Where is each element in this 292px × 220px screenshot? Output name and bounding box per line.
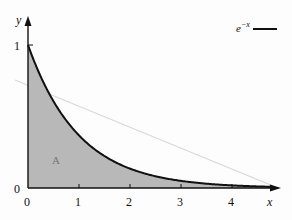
y-tick-label-0: 0 <box>14 182 20 196</box>
x-tick-label-3: 3 <box>177 195 183 209</box>
chart-figure: y 1 0 0 1 2 3 4 x A e−x <box>0 0 292 220</box>
legend-label: e−x <box>236 20 250 34</box>
region-label-a: A <box>52 154 60 166</box>
x-tick-label-1: 1 <box>75 195 81 209</box>
legend: e−x <box>236 20 277 34</box>
x-tick-label-0: 0 <box>24 195 30 209</box>
chart-svg: y 1 0 0 1 2 3 4 x A e−x <box>0 0 292 220</box>
y-axis-arrow-icon <box>25 16 32 26</box>
x-axis-arrow-icon <box>270 185 281 192</box>
x-axis-label: x <box>266 195 273 209</box>
y-tick-label-1: 1 <box>14 39 20 53</box>
y-axis-label: y <box>15 13 22 27</box>
x-tick-label-4: 4 <box>228 195 234 209</box>
x-tick-label-2: 2 <box>126 195 132 209</box>
